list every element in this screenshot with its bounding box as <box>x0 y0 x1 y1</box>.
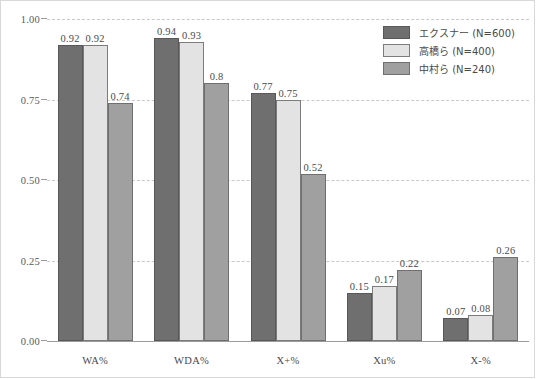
y-axis-tick-label: 0.50 <box>21 175 40 186</box>
bar[interactable]: 0.52 <box>301 174 326 341</box>
x-axis-tick-label: X-% <box>470 355 491 366</box>
bar-value-label: 0.15 <box>350 281 369 292</box>
bar[interactable]: 0.07 <box>443 318 468 341</box>
chart-frame: 0.000.250.500.751.00 0.920.920.74WA%0.94… <box>0 0 535 378</box>
legend-swatch-icon <box>383 26 410 39</box>
bar[interactable]: 0.92 <box>58 45 83 341</box>
bar[interactable]: 0.93 <box>179 42 204 341</box>
bar[interactable]: 0.08 <box>468 315 493 341</box>
bar-value-label: 0.26 <box>496 245 515 256</box>
bar[interactable]: 0.92 <box>83 45 108 341</box>
x-axis-line <box>47 341 529 342</box>
bar-group: 0.770.750.52X+% <box>251 19 326 341</box>
y-axis-tick-label: 0.00 <box>21 336 40 347</box>
y-axis-tick-label: 1.00 <box>21 14 40 25</box>
bar[interactable]: 0.75 <box>276 100 301 342</box>
legend-item-label: エクスナー (N=600) <box>419 25 515 40</box>
bar-value-label: 0.92 <box>86 33 105 44</box>
bar[interactable]: 0.17 <box>372 286 397 341</box>
bar-value-label: 0.08 <box>471 303 490 314</box>
legend-item-label: 高橋ら (N=400) <box>419 43 495 58</box>
bar[interactable]: 0.26 <box>493 257 518 341</box>
bar[interactable]: 0.94 <box>154 38 179 341</box>
bar-value-label: 0.75 <box>278 88 297 99</box>
legend-swatch-icon <box>383 44 410 57</box>
bar-value-label: 0.17 <box>375 274 394 285</box>
legend-item-label: 中村ら (N=240) <box>419 61 495 76</box>
bar-value-label: 0.74 <box>111 91 130 102</box>
bar-value-label: 0.93 <box>182 30 201 41</box>
bar[interactable]: 0.74 <box>108 103 133 341</box>
bar-group: 0.940.930.8WDA% <box>154 19 229 341</box>
legend-item[interactable]: エクスナー (N=600) <box>383 24 529 41</box>
bar-value-label: 0.94 <box>157 26 176 37</box>
bar-value-label: 0.77 <box>253 81 272 92</box>
x-axis-tick-label: X+% <box>276 355 299 366</box>
y-axis-tick-label: 0.25 <box>21 255 40 266</box>
bar[interactable]: 0.8 <box>204 83 229 341</box>
chart-legend: エクスナー (N=600) 高橋ら (N=400) 中村ら (N=240) <box>383 24 529 78</box>
bar-value-label: 0.92 <box>61 33 80 44</box>
legend-swatch-icon <box>383 62 410 75</box>
bar-value-label: 0.07 <box>446 306 465 317</box>
bar[interactable]: 0.22 <box>397 270 422 341</box>
bar[interactable]: 0.77 <box>251 93 276 341</box>
y-axis-tick-label: 0.75 <box>21 94 40 105</box>
legend-item[interactable]: 中村ら (N=240) <box>383 60 529 77</box>
bar-group: 0.920.920.74WA% <box>58 19 133 341</box>
bar-value-label: 0.8 <box>210 71 224 82</box>
bar-value-label: 0.22 <box>400 258 419 269</box>
x-axis-tick-label: Xu% <box>373 355 395 366</box>
x-axis-tick-label: WDA% <box>174 355 209 366</box>
x-axis-tick-label: WA% <box>82 355 108 366</box>
bar[interactable]: 0.15 <box>347 293 372 341</box>
bar-value-label: 0.52 <box>303 162 322 173</box>
legend-item[interactable]: 高橋ら (N=400) <box>383 42 529 59</box>
